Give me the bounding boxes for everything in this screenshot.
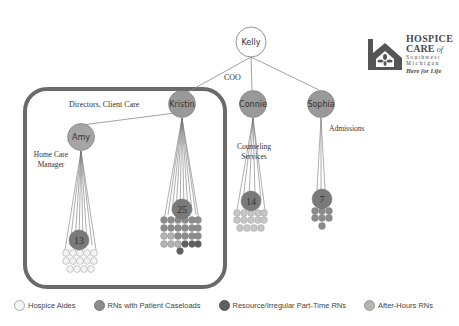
team-cluster-connie: 14 (234, 191, 268, 231)
team-cluster-sophia: 7 (312, 189, 333, 229)
team-cluster-kristin: 25 (161, 199, 202, 254)
node-amy-label: Amy (72, 133, 90, 142)
node-amy[interactable]: Amy (68, 124, 95, 151)
node-connie-label: Connie (239, 100, 267, 109)
team-count-kristin: 25 (177, 204, 187, 215)
legend-item-hospice-aides: Hospice Aides (14, 300, 76, 311)
node-kristin[interactable]: Kristin (169, 91, 196, 118)
logo-line-michigan: Michigan (406, 61, 453, 67)
legend-item-resource-rns: Resource/Irregular Part-Time RNs (219, 300, 347, 311)
label-counseling-2: Services (241, 152, 266, 161)
legend-label: RNs with Patient Caseloads (108, 301, 201, 310)
legend-label: Hospice Aides (28, 301, 76, 310)
logo-line-of: of (437, 45, 443, 54)
team-count-sophia: 7 (320, 194, 325, 205)
legend-swatch-after-hours (364, 300, 375, 311)
node-kelly[interactable]: Kelly (236, 27, 266, 57)
directors-client-care-box (25, 89, 225, 287)
logo-line-care: CARE (406, 43, 434, 54)
team-count-connie: 14 (246, 196, 256, 207)
legend-swatch-rn-caseloads (94, 300, 105, 311)
legend-swatch-aides (14, 300, 25, 311)
legend-item-rns-caseloads: RNs with Patient Caseloads (94, 300, 201, 311)
node-kristin-label: Kristin (169, 100, 194, 109)
label-admissions: Admissions (329, 124, 365, 133)
label-counseling-1: Counseling (237, 142, 271, 151)
node-sophia-label: Sophia (307, 100, 334, 109)
legend: Hospice Aides RNs with Patient Caseloads… (14, 300, 451, 311)
legend-label: Resource/Irregular Part-Time RNs (233, 301, 347, 310)
label-directors-client-care: Directors, Client Care (69, 100, 140, 109)
node-connie[interactable]: Connie (239, 91, 267, 118)
legend-item-after-hours-rns: After-Hours RNs (364, 300, 433, 311)
team-cluster-amy: 13 (63, 230, 98, 272)
label-home-care-1: Home Care (34, 150, 69, 159)
fan-lines (65, 118, 325, 250)
label-coo: COO (224, 73, 241, 82)
house-leaf-icon (366, 37, 404, 71)
legend-swatch-resource-rns (219, 300, 230, 311)
node-kelly-label: Kelly (242, 38, 261, 47)
team-count-amy: 13 (74, 235, 84, 246)
legend-label: After-Hours RNs (378, 301, 433, 310)
logo-tagline: Here for Life (406, 68, 453, 75)
node-sophia[interactable]: Sophia (307, 91, 334, 118)
hospice-care-logo: HOSPICE CARE of Southwest Michigan Here … (366, 34, 456, 89)
label-home-care-2: Manager (38, 160, 65, 169)
